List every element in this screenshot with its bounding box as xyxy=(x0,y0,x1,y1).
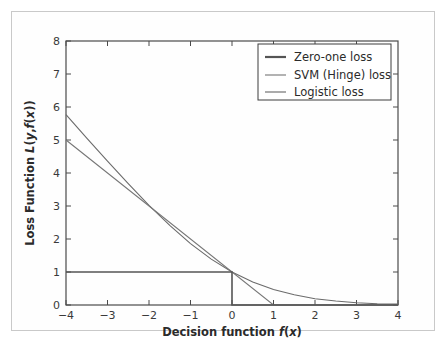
y-axis-title-prefix: Loss Function xyxy=(23,153,37,246)
y-tick-label: 4 xyxy=(53,167,60,180)
y-tick-label: 1 xyxy=(53,266,60,279)
legend-label-logistic-loss: Logistic loss xyxy=(294,85,364,99)
y-tick-label: 5 xyxy=(53,134,60,147)
x-tick-label: 2 xyxy=(312,309,319,322)
legend-label-svm-hinge-loss: SVM (Hinge) loss xyxy=(294,68,391,82)
y-tick-label: 7 xyxy=(53,68,60,81)
x-tick-label: −1 xyxy=(182,309,198,322)
x-tick-label: −2 xyxy=(141,309,157,322)
x-tick-label: 1 xyxy=(270,309,277,322)
series-line-zero-one-loss xyxy=(66,272,398,305)
series-group xyxy=(66,115,398,305)
x-tick-label: 4 xyxy=(395,309,402,322)
x-tick-label: 0 xyxy=(229,309,236,322)
y-tick-label: 2 xyxy=(53,233,60,246)
x-tick-label: −3 xyxy=(99,309,115,322)
y-tick-label: 6 xyxy=(53,101,60,114)
legend-label-zero-one-loss: Zero-one loss xyxy=(294,50,372,64)
caption-strip xyxy=(0,336,446,350)
x-tick-label: −4 xyxy=(58,309,74,322)
x-tick-label: 3 xyxy=(353,309,360,322)
y-tick-labels: 0 1 2 3 4 5 6 7 8 xyxy=(53,35,60,312)
x-tick-labels: −4 −3 −2 −1 0 1 2 3 4 xyxy=(58,309,402,322)
y-tick-label: 8 xyxy=(53,35,60,48)
y-axis-title: Loss Function L(y,f(x)) xyxy=(23,100,37,246)
y-axis-title-close1: ) xyxy=(23,100,37,105)
legend: Zero-one loss SVM (Hinge) loss Logistic … xyxy=(258,44,391,100)
figure-container: −4 −3 −2 −1 0 1 2 3 4 0 1 2 3 4 5 6 7 8 xyxy=(0,0,446,350)
y-axis-title-L: L xyxy=(23,146,37,153)
y-tick-label: 3 xyxy=(53,200,60,213)
chart-canvas: −4 −3 −2 −1 0 1 2 3 4 0 1 2 3 4 5 6 7 8 xyxy=(0,0,446,350)
y-tick-label: 0 xyxy=(53,299,60,312)
